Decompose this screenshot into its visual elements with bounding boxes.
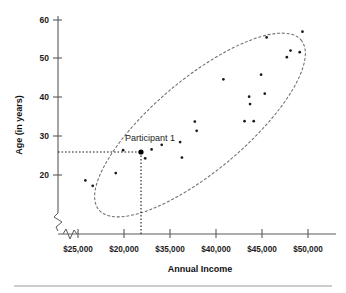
y-tick-label-30: 30: [40, 131, 50, 141]
x-axis-title: Annual Income: [168, 264, 233, 274]
data-point: [263, 92, 266, 95]
scatter-plot-figure: 60 50 40 30 20 Age (in years) $25,000 $2…: [0, 0, 346, 293]
data-point: [195, 129, 198, 132]
data-point: [298, 51, 301, 54]
y-tick-label-40: 40: [40, 92, 50, 102]
x-tick-label-0: $25,000: [63, 245, 93, 254]
y-tick-label-50: 50: [40, 53, 50, 63]
data-point: [160, 143, 163, 146]
x-tick-label-1: $20,000: [109, 245, 139, 254]
data-point: [252, 120, 255, 123]
data-point: [150, 148, 153, 151]
data-point: [243, 120, 246, 123]
data-point: [122, 149, 125, 152]
x-tick-label-5: $50,000: [293, 245, 323, 254]
data-point: [301, 30, 304, 33]
data-point: [265, 36, 268, 39]
y-tick-label-60: 60: [40, 15, 50, 25]
data-point: [181, 156, 184, 159]
y-axis-title: Age (in years): [14, 95, 24, 155]
data-point: [222, 78, 225, 81]
data-point: [285, 56, 288, 59]
chart-canvas: 60 50 40 30 20 Age (in years) $25,000 $2…: [0, 0, 346, 293]
data-point: [114, 172, 117, 175]
data-point: [84, 179, 87, 182]
data-point: [193, 120, 196, 123]
x-tick-label-3: $40,000: [201, 245, 231, 254]
data-point: [260, 73, 263, 76]
data-point: [91, 185, 94, 188]
data-point: [144, 157, 147, 160]
y-tick-label-20: 20: [40, 170, 50, 180]
data-point: [248, 95, 251, 98]
annotation-participant-1-label: Participant 1: [125, 133, 175, 143]
data-point: [179, 141, 182, 144]
highlight-point-participant-1[interactable]: [138, 149, 143, 154]
x-tick-label-2: $35,000: [155, 245, 185, 254]
x-tick-label-4: $45,000: [247, 245, 277, 254]
data-point: [249, 103, 252, 106]
data-point: [289, 49, 292, 52]
